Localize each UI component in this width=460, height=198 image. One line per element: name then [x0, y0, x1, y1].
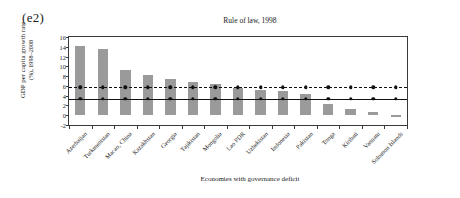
y-tick-label: 14	[60, 43, 66, 50]
y-tick-label: -2	[61, 122, 66, 129]
x-tick-label-text: Indonesia	[269, 130, 291, 152]
y-tick-mark	[66, 76, 69, 77]
y-tick-label: 8	[63, 73, 66, 80]
figure-panel-e2: (e2) Rule of law, 1998 GDP per capita gr…	[0, 0, 460, 198]
x-tick-mark	[294, 125, 295, 129]
bar	[323, 104, 333, 115]
x-tick-label-text: Georgia	[159, 130, 178, 149]
y-tick-label: 16	[60, 34, 66, 41]
bar	[75, 46, 85, 115]
y-tick-mark	[66, 96, 69, 97]
y-tick-label: 0	[63, 112, 66, 119]
y-tick-label: 6	[63, 82, 66, 89]
y-tick-mark	[66, 115, 69, 116]
x-tick-label-text: Tajikistan	[179, 130, 201, 153]
x-tick-mark	[69, 125, 70, 129]
chart-title: Rule of law, 1998	[130, 16, 370, 25]
y-tick-label: 10	[60, 63, 66, 70]
plot-area: -20246810121416AzerbaijanTurkmenistanMac…	[68, 36, 408, 126]
y-tick-label: 4	[63, 92, 66, 99]
x-tick-mark	[182, 125, 183, 129]
bar	[98, 49, 108, 115]
bar	[368, 112, 378, 115]
bar	[255, 90, 265, 115]
x-tick-label-text: Tonga	[320, 130, 336, 146]
x-tick-label-text: Pakistan	[294, 130, 314, 150]
y-tick-mark	[66, 57, 69, 58]
x-tick-label-text: Vanuatu	[362, 130, 381, 150]
x-tick-mark	[249, 125, 250, 129]
x-tick-mark	[362, 125, 363, 129]
x-tick-mark	[92, 125, 93, 129]
x-tick-label-text: Kiribati	[340, 130, 359, 149]
y-tick-mark	[66, 47, 69, 48]
x-tick-mark	[339, 125, 340, 129]
x-tick-mark	[114, 125, 115, 129]
x-tick-label-text: Kazakhstan	[130, 130, 155, 156]
bar	[345, 109, 355, 115]
x-tick-mark	[317, 125, 318, 129]
x-tick-label-text: Lao PDR	[225, 130, 246, 152]
y-axis-label: GDP per capita growth rate (%), 1998–200…	[19, 5, 39, 115]
x-axis-caption: Economies with governance deficit	[120, 175, 380, 183]
x-tick-label-text: Mongolia	[201, 130, 223, 152]
x-tick-mark	[272, 125, 273, 129]
x-tick-mark	[137, 125, 138, 129]
x-tick-mark	[384, 125, 385, 129]
bar-series	[69, 37, 407, 125]
x-tick-mark	[159, 125, 160, 129]
y-axis-label-line1: GDP per capita growth rate	[19, 5, 27, 115]
x-tick-label-text: Uzbekistan	[244, 130, 269, 155]
x-tick-mark	[227, 125, 228, 129]
y-tick-mark	[66, 66, 69, 67]
y-tick-mark	[66, 105, 69, 106]
y-axis-label-line2: (%), 1998–2008	[27, 5, 35, 115]
y-tick-label: 12	[60, 53, 66, 60]
x-tick-mark	[407, 125, 408, 129]
x-tick-mark	[204, 125, 205, 129]
y-tick-label: 2	[63, 102, 66, 109]
y-tick-mark	[66, 37, 69, 38]
